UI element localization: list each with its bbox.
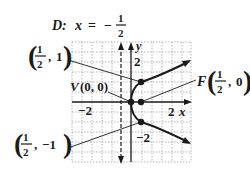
eq-sign: − xyxy=(104,18,112,33)
focus-point xyxy=(138,99,144,105)
upper-point xyxy=(138,79,144,85)
svg-text:(0, 0): (0, 0) xyxy=(80,79,108,94)
x-tick-neg2: −2 xyxy=(78,103,92,118)
y-tick-2: 2 xyxy=(134,54,141,69)
x-axis-label: x xyxy=(178,104,186,119)
svg-text:2: 2 xyxy=(23,146,29,158)
svg-text:): ) xyxy=(243,65,250,96)
svg-text:): ) xyxy=(63,40,72,71)
upper-point-label: ( 1 2 , 1 ) xyxy=(28,40,72,71)
focus-label: F ( 1 2 , 0 ) xyxy=(196,65,250,96)
eq-prefix: D: xyxy=(51,18,67,33)
svg-text:(: ( xyxy=(207,65,216,96)
svg-text:1: 1 xyxy=(217,68,223,80)
x-tick-2: 2 xyxy=(168,104,175,119)
svg-text:,: , xyxy=(228,74,231,89)
svg-text:−1: −1 xyxy=(42,137,56,152)
lower-point-label: ( 1 2 , −1 ) xyxy=(14,128,72,159)
eq-equals: = xyxy=(88,18,96,33)
eq-var: x xyxy=(74,18,82,33)
svg-text:): ) xyxy=(63,128,72,159)
svg-text:V: V xyxy=(70,79,80,94)
svg-text:1: 1 xyxy=(23,131,29,143)
svg-text:,: , xyxy=(48,49,51,64)
svg-text:1: 1 xyxy=(37,43,43,55)
svg-text:2: 2 xyxy=(37,58,43,70)
vertex-label: V (0, 0) xyxy=(70,79,108,94)
directrix-equation: D: x = − 1 2 xyxy=(51,12,126,39)
eq-den: 2 xyxy=(118,27,124,39)
svg-text:0: 0 xyxy=(236,74,243,89)
lower-point xyxy=(138,119,144,125)
eq-num: 1 xyxy=(118,12,124,24)
svg-text:1: 1 xyxy=(56,49,63,64)
y-axis-label: y xyxy=(134,39,142,53)
svg-text:F: F xyxy=(196,74,207,89)
parabola-diagram: D: x = − 1 2 ( 1 2 , 1 ) V (0, 0) F ( 1 … xyxy=(0,0,250,173)
y-tick-neg2: −2 xyxy=(136,130,150,145)
vertex-point xyxy=(128,99,134,105)
svg-text:,: , xyxy=(34,137,37,152)
svg-text:2: 2 xyxy=(217,83,223,95)
directrix-line xyxy=(118,42,124,164)
